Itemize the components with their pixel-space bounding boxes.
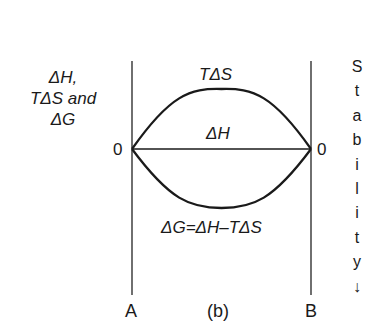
stability-label: S t a b i l i t y ↓ [347, 55, 367, 299]
panel-label: (b) [207, 301, 229, 321]
y-axis-label: ΔH, TΔS and ΔG [8, 67, 118, 130]
down-arrow-icon: ↓ [347, 275, 367, 299]
left-zero-label: 0 [113, 140, 122, 160]
stability-letter: l [347, 177, 367, 201]
stability-letter: i [347, 153, 367, 177]
stability-letter: a [347, 104, 367, 128]
stability-letter: t [347, 226, 367, 250]
stability-letter: S [347, 55, 367, 79]
stability-letter: t [347, 79, 367, 103]
point-b-label: B [305, 301, 317, 321]
y-label-line1: ΔH, [8, 67, 118, 88]
y-label-line3: ΔG [8, 109, 118, 130]
diagram-canvas [0, 0, 383, 330]
point-a-label: A [125, 301, 137, 321]
stability-letter: i [347, 201, 367, 225]
delta-h-label: ΔH [206, 124, 230, 144]
y-label-line2: TΔS and [8, 88, 118, 109]
right-zero-label: 0 [317, 140, 326, 160]
stability-letter: y [347, 250, 367, 274]
delta-g-curve [132, 149, 311, 208]
delta-g-label: ΔG=ΔH–TΔS [161, 218, 262, 238]
t-delta-s-label: TΔS [199, 65, 232, 85]
stability-letter: b [347, 128, 367, 152]
